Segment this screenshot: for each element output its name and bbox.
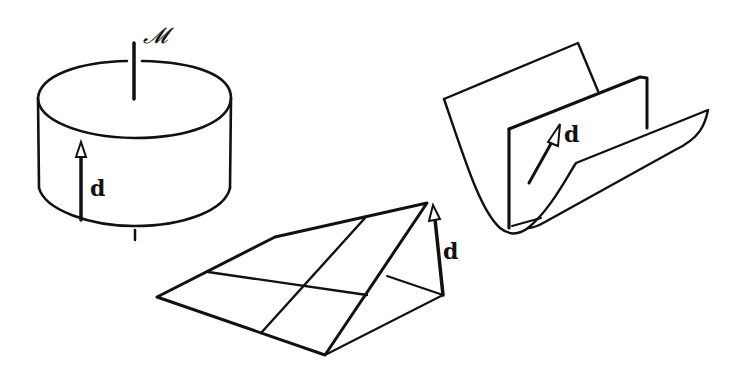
trough-vector-label: d <box>564 121 579 147</box>
wedge-vector-label: d <box>443 238 458 264</box>
arrow-head-icon <box>429 205 440 221</box>
cylinder-bottom-arc <box>39 188 230 226</box>
cylinder: d 𝓜 <box>38 23 231 240</box>
cylinder-right-side <box>230 98 231 188</box>
arrow-head-icon <box>76 142 86 157</box>
arrow-shaft <box>435 219 443 295</box>
arrow-shaft <box>529 140 553 183</box>
trough-front-sheet <box>528 110 708 228</box>
trough-left-wall <box>444 99 528 233</box>
cylinder-vector-d <box>76 142 86 220</box>
wedge-back-bottom-edge <box>325 295 443 355</box>
cylinder-vector-label: d <box>90 175 105 201</box>
cylinder-left-side <box>38 98 39 188</box>
wedge-grid-line-horizontal <box>208 272 367 295</box>
trough-vector-d <box>529 124 560 183</box>
wedge-front-plane <box>157 203 427 355</box>
manifold-label: 𝓜 <box>143 23 174 48</box>
trough: d <box>444 43 708 233</box>
wedge-back-line <box>387 276 443 295</box>
wedge: d <box>157 203 458 355</box>
arrow-head-icon <box>548 124 560 146</box>
wedge-vector-d <box>429 205 443 295</box>
trough-back-top-edge <box>444 43 598 99</box>
figure-canvas: d 𝓜 d d <box>0 0 742 378</box>
